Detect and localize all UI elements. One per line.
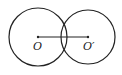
label-o-prime: O′ xyxy=(83,40,95,53)
center-point-o xyxy=(37,36,39,38)
center-point-o-prime xyxy=(87,36,89,38)
intersecting-circles-diagram: O O′ xyxy=(0,0,122,75)
label-o: O xyxy=(33,40,42,53)
